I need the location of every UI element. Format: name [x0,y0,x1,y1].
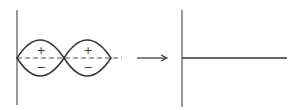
lobe-1-plus-label: + [36,44,45,57]
lobe-2-minus-label: − [83,61,92,74]
lobe-1-minus-label: − [36,61,45,74]
diagram-canvas: + − + − [0,0,302,110]
lobe-2-plus-label: + [83,44,92,57]
